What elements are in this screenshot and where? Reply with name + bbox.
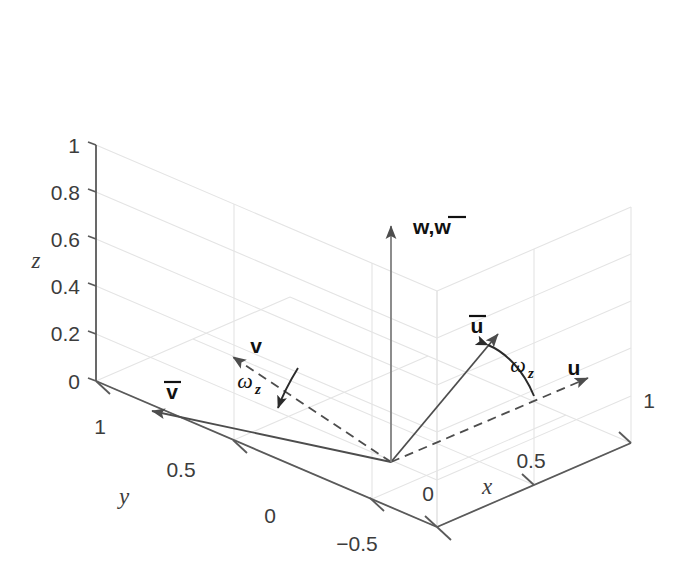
- vector-v: [233, 357, 391, 462]
- y-tick-1: 1: [94, 415, 106, 438]
- z-tick-labels: 1 0.8 0.6 0.4 0.2 0: [51, 134, 81, 393]
- z-tick-0_4: 0.4: [51, 275, 81, 298]
- x-axis-ticks: [425, 432, 631, 527]
- vector-v-text: v: [250, 334, 262, 357]
- label-vector-v: v: [250, 334, 262, 357]
- y-tick-0: 0: [264, 504, 276, 527]
- omega-symbol-right: ω: [510, 352, 526, 377]
- omega-arc-left: [278, 368, 298, 408]
- x-axis-label: x: [481, 474, 493, 499]
- z-tick-0_6: 0.6: [51, 228, 80, 251]
- vector-v-bar: [152, 411, 391, 462]
- vector-diagram-svg: 1 0.8 0.6 0.4 0.2 0 1 0.5 0 −0.5 0 0.5 1…: [0, 0, 677, 571]
- z-tick-1: 1: [68, 134, 80, 157]
- z-tick-0_8: 0.8: [51, 181, 80, 204]
- y-axis-label: y: [117, 484, 130, 509]
- omega-subscript-right: z: [527, 365, 534, 381]
- x-tick-0_5: 0.5: [516, 449, 545, 472]
- vector-u: [391, 378, 588, 462]
- vector-v-bar-text: v: [166, 380, 178, 403]
- x-tick-1: 1: [643, 389, 655, 412]
- z-axis-label: z: [31, 248, 41, 273]
- z-tick-0: 0: [68, 370, 80, 393]
- vector-w-wbar-text: w,w: [412, 215, 451, 238]
- omega-label-right: ω z: [510, 352, 534, 381]
- vector-u-bar: [391, 334, 498, 462]
- omega-symbol-left: ω: [237, 368, 253, 393]
- label-vector-u: u: [568, 356, 581, 379]
- x-tick-0: 0: [422, 482, 434, 505]
- z-tick-0_2: 0.2: [51, 322, 80, 345]
- y-tick-0_5: 0.5: [166, 458, 195, 481]
- y-tick-neg0_5: −0.5: [336, 532, 377, 555]
- label-vector-w-wbar: w,w: [412, 215, 466, 238]
- vector-u-bar-text: u: [471, 314, 484, 337]
- figure-canvas: 1 0.8 0.6 0.4 0.2 0 1 0.5 0 −0.5 0 0.5 1…: [0, 0, 677, 571]
- z-axis: [88, 142, 96, 381]
- label-vector-v-bar: v: [164, 380, 181, 403]
- omega-label-left: ω z: [237, 368, 261, 397]
- vector-u-text: u: [568, 356, 581, 379]
- omega-subscript-left: z: [254, 381, 261, 397]
